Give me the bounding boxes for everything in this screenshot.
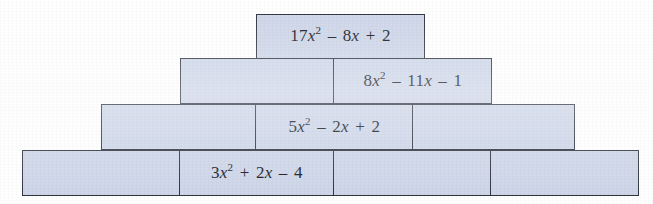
brick-filled-4-2[interactable]: 3x2 + 2x – 4 — [179, 150, 334, 196]
polynomial-pyramid-diagram: 17x2 – 8x + 28x2 – 11x – 15x2 – 2x + 23x… — [0, 0, 653, 204]
brick-row-4: 3x2 + 2x – 4 — [22, 150, 639, 196]
brick-filled-2-2[interactable]: 8x2 – 11x – 1 — [333, 58, 492, 104]
brick-row-3: 5x2 – 2x + 2 — [101, 104, 575, 150]
brick-empty-3-3[interactable] — [412, 104, 575, 150]
brick-row-2: 8x2 – 11x – 1 — [180, 58, 492, 104]
brick-filled-3-2[interactable]: 5x2 – 2x + 2 — [255, 104, 413, 150]
brick-expression-label: 5x2 – 2x + 2 — [289, 118, 381, 135]
brick-empty-4-1[interactable] — [22, 150, 181, 196]
brick-empty-3-1[interactable] — [101, 104, 257, 150]
brick-filled-1-1[interactable]: 17x2 – 8x + 2 — [256, 14, 425, 59]
brick-empty-4-4[interactable] — [490, 150, 639, 196]
brick-expression-label: 17x2 – 8x + 2 — [290, 27, 390, 44]
brick-expression-label: 3x2 + 2x – 4 — [211, 164, 303, 181]
brick-empty-2-1[interactable] — [180, 58, 335, 104]
brick-empty-4-3[interactable] — [333, 150, 492, 196]
brick-expression-label: 8x2 – 11x – 1 — [364, 72, 463, 89]
brick-row-1: 17x2 – 8x + 2 — [256, 14, 425, 59]
